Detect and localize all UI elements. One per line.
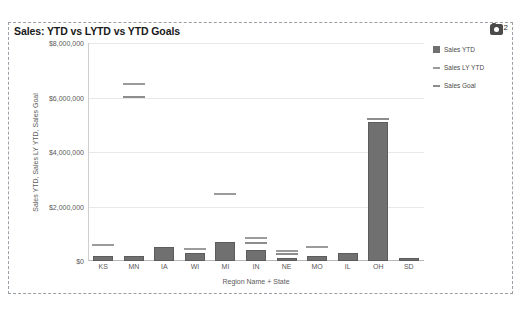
bar[interactable]: [185, 253, 205, 261]
legend-item[interactable]: Sales YTD: [433, 45, 509, 54]
reference-marker[interactable]: [276, 253, 298, 255]
bar-group[interactable]: [88, 43, 119, 261]
bar[interactable]: [215, 242, 235, 261]
screenshot-page: Sales: YTD vs LYTD vs YTD Goals 2 Sales …: [0, 0, 525, 317]
y-axis-title-label: Sales YTD, Sales LY YTD, Sales Goal: [32, 93, 39, 212]
bar[interactable]: [93, 256, 113, 261]
bar[interactable]: [246, 250, 266, 261]
y-axis-title: Sales YTD, Sales LY YTD, Sales Goal: [29, 43, 41, 261]
x-axis-tick-label: KS: [88, 263, 119, 270]
reference-marker[interactable]: [306, 246, 328, 248]
bar[interactable]: [338, 253, 358, 261]
x-axis-tick-label: SD: [393, 263, 424, 270]
y-axis-tick-label: $8,000,000: [49, 40, 84, 47]
x-axis-tick-label: IA: [149, 263, 180, 270]
reference-marker[interactable]: [92, 244, 114, 246]
reference-marker[interactable]: [123, 83, 145, 85]
bar-series-container: [88, 43, 424, 261]
reference-marker[interactable]: [184, 248, 206, 250]
bar[interactable]: [124, 256, 144, 261]
x-axis-title-label: Region Name + State: [222, 278, 289, 285]
bar-group[interactable]: [149, 43, 180, 261]
visualization-frame[interactable]: Sales: YTD vs LYTD vs YTD Goals 2 Sales …: [8, 22, 513, 294]
bar-group[interactable]: [119, 43, 150, 261]
bar[interactable]: [368, 122, 388, 261]
y-axis-tick-label: $0: [76, 258, 84, 265]
x-axis-tick-label: IL: [332, 263, 363, 270]
legend-item-label: Sales YTD: [444, 46, 475, 53]
x-axis-tick-label: WI: [180, 263, 211, 270]
chart-header: Sales: YTD vs LYTD vs YTD Goals 2: [9, 23, 514, 42]
bar[interactable]: [277, 258, 297, 261]
camera-badge-count: 2: [504, 24, 508, 32]
x-axis-title: Region Name + State: [88, 278, 424, 285]
screenshot-badge[interactable]: 2: [490, 24, 508, 35]
legend-item-label: Sales LY YTD: [444, 64, 484, 71]
legend-item-label: Sales Goal: [444, 82, 476, 89]
x-axis-tick-label: MN: [119, 263, 150, 270]
gridline: [89, 261, 424, 262]
reference-marker[interactable]: [245, 242, 267, 244]
x-axis-tick-labels: KSMNIAWIMIINNEMOILOHSD: [88, 263, 424, 270]
x-axis-tick-label: OH: [363, 263, 394, 270]
x-axis-tick-label: MI: [210, 263, 241, 270]
legend-item[interactable]: Sales Goal: [433, 81, 509, 90]
bar[interactable]: [307, 256, 327, 261]
page-title: Sales: YTD vs LYTD vs YTD Goals: [14, 25, 180, 37]
legend-item[interactable]: Sales LY YTD: [433, 63, 509, 72]
camera-icon[interactable]: [490, 24, 503, 35]
bar-group[interactable]: [210, 43, 241, 261]
legend-swatch-dash-icon: [433, 85, 440, 87]
x-axis-tick-label: MO: [302, 263, 333, 270]
chart-legend: Sales YTDSales LY YTDSales Goal: [433, 45, 509, 99]
y-axis-tick-label: $6,000,000: [49, 94, 84, 101]
reference-marker[interactable]: [245, 237, 267, 239]
bar-group[interactable]: [332, 43, 363, 261]
legend-swatch-dash-icon: [433, 67, 440, 69]
y-axis-tick-label: $4,000,000: [49, 149, 84, 156]
reference-marker[interactable]: [123, 96, 145, 98]
bar-group[interactable]: [271, 43, 302, 261]
bar-group[interactable]: [393, 43, 424, 261]
y-axis-tick-label: $2,000,000: [49, 203, 84, 210]
bar[interactable]: [399, 258, 419, 261]
legend-swatch-square-icon: [433, 46, 440, 53]
bar-group[interactable]: [363, 43, 394, 261]
bar[interactable]: [154, 247, 174, 261]
bar-group[interactable]: [241, 43, 272, 261]
reference-marker[interactable]: [214, 193, 236, 195]
bar-group[interactable]: [180, 43, 211, 261]
x-axis-tick-label: IN: [241, 263, 272, 270]
reference-marker[interactable]: [276, 250, 298, 252]
bar-group[interactable]: [302, 43, 333, 261]
reference-marker[interactable]: [367, 118, 389, 120]
x-axis-tick-label: NE: [271, 263, 302, 270]
